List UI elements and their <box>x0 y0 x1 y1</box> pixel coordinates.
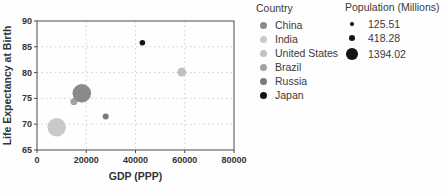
country-legend-items: ChinaIndiaUnited StatesBrazilRussiaJapan <box>256 18 338 102</box>
country-legend-title: Country <box>256 2 338 14</box>
y-tick-label: 85 <box>22 42 32 52</box>
country-color-dot-cell <box>256 22 270 29</box>
bubble-united-states <box>177 68 186 77</box>
population-legend-label: 1394.02 <box>368 48 406 60</box>
population-legend-item-418-28: 418.28 <box>345 31 440 45</box>
x-tick-label: 20000 <box>74 155 99 165</box>
country-legend: Country ChinaIndiaUnited StatesBrazilRus… <box>256 2 338 102</box>
population-size-dot-cell <box>345 35 359 41</box>
country-color-dot-cell <box>256 50 270 57</box>
country-legend-label: Japan <box>275 89 304 101</box>
country-color-dot <box>260 22 267 29</box>
country-legend-item-japan: Japan <box>256 88 338 102</box>
country-legend-item-russia: Russia <box>256 74 338 88</box>
population-legend: Population (Millions) 125.51418.281394.0… <box>345 1 440 63</box>
y-tick-label: 90 <box>22 16 32 26</box>
scatter-plot: 020000400006000080000657075808590GDP (PP… <box>0 0 250 193</box>
population-size-dot-cell <box>345 22 359 25</box>
population-legend-label: 418.28 <box>368 32 400 44</box>
country-legend-item-china: China <box>256 18 338 32</box>
population-legend-item-125-51: 125.51 <box>345 17 440 31</box>
country-color-dot <box>260 78 267 85</box>
bubble-china <box>73 84 92 103</box>
population-size-dot <box>346 48 358 60</box>
country-color-dot <box>260 92 267 99</box>
country-color-dot <box>260 64 267 71</box>
country-legend-item-united-states: United States <box>256 46 338 60</box>
population-legend-label: 125.51 <box>368 18 400 30</box>
country-legend-label: India <box>275 33 298 45</box>
y-tick-label: 80 <box>22 68 32 78</box>
bubble-india <box>47 118 65 136</box>
x-tick-label: 0 <box>34 155 39 165</box>
country-legend-item-india: India <box>256 32 338 46</box>
population-legend-items: 125.51418.281394.02 <box>345 17 440 63</box>
population-size-dot <box>349 35 355 41</box>
population-legend-item-1394-02: 1394.02 <box>345 45 440 63</box>
country-color-dot-cell <box>256 64 270 71</box>
country-color-dot <box>260 50 267 57</box>
population-legend-title: Population (Millions) <box>345 1 440 13</box>
country-legend-item-brazil: Brazil <box>256 60 338 74</box>
country-legend-label: Russia <box>275 75 307 87</box>
x-axis-title: GDP (PPP) <box>109 170 162 182</box>
x-tick-label: 40000 <box>123 155 148 165</box>
country-legend-label: Brazil <box>275 61 301 73</box>
population-size-dot <box>350 22 353 25</box>
y-axis-title: Life Expectancy at Birth <box>1 26 13 146</box>
y-tick-label: 75 <box>22 93 32 103</box>
country-legend-label: United States <box>275 47 338 59</box>
x-tick-label: 80000 <box>221 155 246 165</box>
x-tick-label: 60000 <box>172 155 197 165</box>
bubble-chart-figure: 020000400006000080000657075808590GDP (PP… <box>0 0 448 193</box>
country-color-dot <box>260 36 267 43</box>
bubble-japan <box>140 40 146 46</box>
y-tick-label: 65 <box>22 145 32 155</box>
country-color-dot-cell <box>256 78 270 85</box>
country-color-dot-cell <box>256 36 270 43</box>
country-legend-label: China <box>275 19 302 31</box>
country-color-dot-cell <box>256 92 270 99</box>
y-tick-label: 70 <box>22 119 32 129</box>
population-size-dot-cell <box>345 48 359 60</box>
bubble-russia <box>103 113 109 119</box>
